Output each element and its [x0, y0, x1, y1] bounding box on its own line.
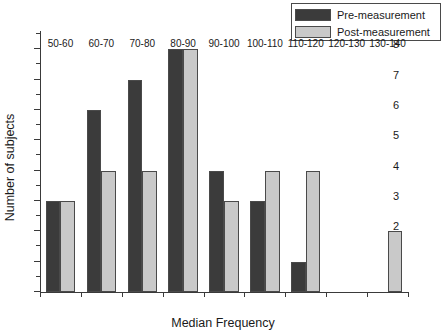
bar-pre-50-60	[46, 201, 61, 292]
y-axis-minor-tick	[36, 154, 40, 155]
y-axis-tick	[34, 230, 40, 231]
y-axis-tick	[34, 200, 40, 201]
bar-post-60-70	[101, 171, 116, 292]
bar-post-130-140	[388, 231, 403, 292]
y-axis-tick-label: 6	[393, 99, 399, 110]
bar-post-80-90	[183, 49, 198, 292]
y-axis-tick	[34, 48, 40, 49]
legend-entry-pre: Pre-measurement	[295, 7, 437, 23]
x-axis-tick-label: 130-140	[369, 38, 406, 49]
bar-pre-60-70	[87, 110, 102, 292]
y-axis-minor-tick	[36, 63, 40, 64]
x-axis-tick	[40, 292, 41, 297]
bar-pre-70-80	[128, 80, 143, 292]
y-axis-title-wrap: Number of subjects	[8, 0, 24, 335]
bar-pre-80-90	[168, 49, 183, 292]
x-axis-tick-label: 110-120	[288, 38, 324, 49]
bar-chart-figure: Pre-measurement Post-measurement 0123456…	[0, 0, 446, 335]
y-axis-tick	[34, 109, 40, 110]
y-axis-minor-tick	[36, 245, 40, 246]
y-axis-minor-tick	[36, 33, 40, 34]
y-axis-minor-tick	[36, 124, 40, 125]
x-axis-tick-label: 80-90	[170, 38, 196, 49]
bar-post-100-110	[265, 171, 280, 292]
y-axis-minor-tick	[36, 276, 40, 277]
x-axis-tick-label: 100-110	[247, 38, 283, 49]
x-axis-tick	[204, 292, 205, 297]
bar-pre-100-110	[250, 201, 265, 292]
y-axis-tick-label: 2	[393, 221, 399, 232]
legend-swatch-pre	[295, 9, 331, 21]
x-axis-tick-label: 120-130	[328, 38, 365, 49]
y-axis-title: Number of subjects	[3, 0, 17, 335]
x-axis-tick	[285, 292, 286, 297]
x-axis-tick	[122, 292, 123, 297]
bar-post-50-60	[60, 201, 75, 292]
y-axis-tick-label: 4	[393, 160, 399, 171]
x-axis-tick-label: 90-100	[208, 38, 239, 49]
x-axis-tick	[244, 292, 245, 297]
x-axis-tick-label: 60-70	[89, 38, 115, 49]
x-axis-tick-label: 50-60	[48, 38, 74, 49]
bar-post-70-80	[142, 171, 157, 292]
x-axis-title: Median Frequency	[0, 316, 446, 330]
bar-pre-110-120	[291, 262, 306, 292]
x-axis-tick	[81, 292, 82, 297]
y-axis-tick	[34, 261, 40, 262]
y-axis-tick-label: 7	[393, 69, 399, 80]
y-axis-tick	[34, 139, 40, 140]
x-axis-tick-label: 70-80	[129, 38, 155, 49]
y-axis-tick-label: 5	[393, 130, 399, 141]
bar-post-90-100	[224, 201, 239, 292]
legend-label-pre: Pre-measurement	[337, 9, 425, 21]
bar-pre-90-100	[209, 171, 224, 292]
plot-area: 01234567850-6060-7070-8080-9090-100100-1…	[40, 31, 408, 292]
y-axis-tick	[34, 79, 40, 80]
x-axis-tick	[326, 292, 327, 297]
y-axis-minor-tick	[36, 94, 40, 95]
x-axis-tick	[163, 292, 164, 297]
bar-post-110-120	[306, 171, 321, 292]
y-axis-minor-tick	[36, 215, 40, 216]
y-axis-minor-tick	[36, 185, 40, 186]
y-axis-tick	[34, 170, 40, 171]
y-axis-tick-label: 3	[393, 190, 399, 201]
x-axis-tick	[367, 292, 368, 297]
x-axis-line	[40, 292, 409, 293]
x-axis-tick	[408, 292, 409, 297]
